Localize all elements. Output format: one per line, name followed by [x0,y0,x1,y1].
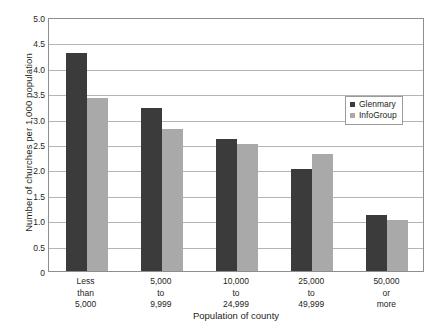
y-tick-label: 1.5 [3,193,45,202]
bar-group [291,19,333,271]
x-axis-title: Population of county [48,310,424,321]
bar [387,220,408,271]
bar [162,129,183,271]
y-tick-label: 3.0 [3,116,45,125]
bar [291,169,312,271]
bar [66,53,87,271]
y-tick-label: 0.5 [3,243,45,252]
legend-swatch-icon [350,102,355,107]
bar-group [216,19,258,271]
legend-swatch-icon [350,113,355,118]
bar [312,154,333,271]
y-tick-label: 4.0 [3,66,45,75]
y-tick-label: 2.0 [3,167,45,176]
bar [237,144,258,271]
bar-series-layer [49,19,423,271]
y-tick-label: 3.5 [3,91,45,100]
bar-group [141,19,183,271]
chart-legend: GlenmaryInfoGroup [345,96,403,125]
bar [366,215,387,271]
legend-item: InfoGroup [350,110,397,121]
y-tick-label: 1.0 [3,218,45,227]
plot-area: 00.51.01.52.02.53.03.54.04.55.0 [48,18,424,272]
bar [141,108,162,271]
bar [87,98,108,271]
bar-group [366,19,408,271]
legend-item: Glenmary [350,99,397,110]
x-tick-label: 50,000 or more [338,276,434,311]
y-tick-label: 2.5 [3,142,45,151]
legend-label: Glenmary [359,99,396,110]
y-tick-label: 5.0 [3,15,45,24]
y-tick-label: 4.5 [3,40,45,49]
legend-label: InfoGroup [359,110,397,121]
bar-group [66,19,108,271]
bar [216,139,237,271]
bar-chart: Number of churches per 1,000 population … [0,0,438,331]
